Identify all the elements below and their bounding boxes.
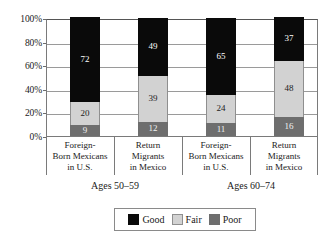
legend-item-good[interactable]: Good: [128, 214, 164, 225]
segment-good: 49: [138, 18, 168, 76]
segment-value-label: 49: [149, 42, 158, 51]
category-line-3: in Mexico: [114, 162, 182, 173]
segment-good: 65: [206, 18, 236, 95]
segment-value-label: 9: [83, 126, 88, 135]
category-line-1: Return: [250, 140, 318, 151]
category-line-3: in U.S.: [46, 162, 114, 173]
legend-label-fair: Fair: [186, 214, 202, 225]
y-tick-label-0: 0%: [0, 132, 42, 142]
category-line-2: Migrants: [114, 151, 182, 162]
segment-poor: 11: [206, 123, 236, 136]
bar-group1-return-migrants[interactable]: 49 39 12: [138, 18, 168, 136]
segment-fair: 20: [70, 102, 100, 126]
segment-value-label: 65: [217, 52, 226, 61]
y-tick-label-20: 20%: [0, 108, 42, 118]
category-line-1: Foreign-: [46, 140, 114, 151]
group-label-ages-60-74: Ages 60–74: [186, 180, 316, 192]
legend-swatch-good-icon: [128, 214, 139, 225]
plot-area: 72 20 9 49 39 12 65: [46, 19, 318, 137]
stacked-bar-chart: 100% 80% 60% 40% 20% 0% 72 20 9: [0, 0, 336, 243]
segment-value-label: 20: [81, 109, 90, 118]
category-line-1: Return: [114, 140, 182, 151]
segment-value-label: 37: [285, 34, 294, 43]
y-tick-label-60: 60%: [0, 61, 42, 71]
segment-poor: 16: [274, 117, 304, 136]
segment-value-label: 39: [149, 94, 158, 103]
segment-fair: 39: [138, 76, 168, 122]
legend-item-poor[interactable]: Poor: [209, 214, 242, 225]
segment-poor: 9: [70, 125, 100, 136]
legend-label-good: Good: [142, 214, 164, 225]
legend-swatch-poor-icon: [209, 214, 220, 225]
y-tick-label-40: 40%: [0, 85, 42, 95]
segment-good: 72: [70, 17, 100, 102]
category-line-3: in U.S.: [182, 162, 250, 173]
category-label-group2-return-migrants: Return Migrants in Mexico: [250, 140, 318, 173]
category-label-group1-foreign-born: Foreign- Born Mexicans in U.S.: [46, 140, 114, 173]
group-label-ages-50-59: Ages 50–59: [50, 180, 180, 192]
y-tick-label-100: 100%: [0, 14, 42, 24]
category-label-group1-return-migrants: Return Migrants in Mexico: [114, 140, 182, 173]
y-axis: 100% 80% 60% 40% 20% 0%: [0, 12, 42, 144]
category-line-1: Foreign-: [182, 140, 250, 151]
legend-label-poor: Poor: [223, 214, 242, 225]
category-line-2: Born Mexicans: [182, 151, 250, 162]
bar-group2-return-migrants[interactable]: 37 48 16: [274, 17, 304, 136]
bar-group2-foreign-born[interactable]: 65 24 11: [206, 18, 236, 136]
legend: Good Fair Poor: [114, 208, 256, 231]
category-label-group2-foreign-born: Foreign- Born Mexicans in U.S.: [182, 140, 250, 173]
bar-group1-foreign-born[interactable]: 72 20 9: [70, 17, 100, 136]
segment-value-label: 12: [149, 124, 158, 133]
segment-value-label: 24: [217, 104, 226, 113]
segment-value-label: 11: [217, 125, 226, 134]
segment-value-label: 16: [285, 122, 294, 131]
legend-swatch-fair-icon: [172, 214, 183, 225]
segment-good: 37: [274, 17, 304, 61]
category-line-2: Migrants: [250, 151, 318, 162]
segment-value-label: 48: [285, 84, 294, 93]
segment-value-label: 72: [81, 55, 90, 64]
segment-fair: 48: [274, 61, 304, 118]
category-line-2: Born Mexicans: [46, 151, 114, 162]
segment-poor: 12: [138, 122, 168, 136]
category-line-3: in Mexico: [250, 162, 318, 173]
segment-fair: 24: [206, 95, 236, 123]
y-tick-label-80: 80%: [0, 38, 42, 48]
legend-item-fair[interactable]: Fair: [172, 214, 202, 225]
